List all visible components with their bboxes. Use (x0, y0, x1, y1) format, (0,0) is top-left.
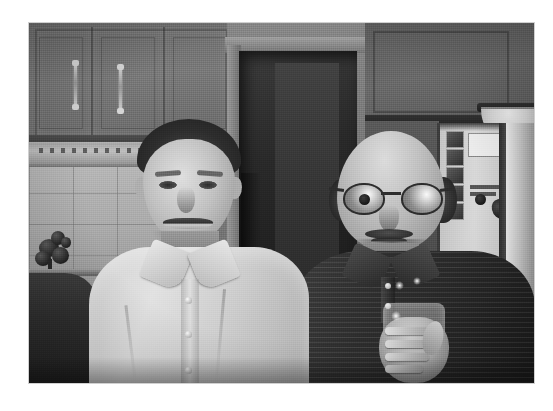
eye (359, 194, 370, 205)
eyeglasses-icon (343, 183, 443, 213)
person-right (291, 131, 534, 383)
cabinet-door (31, 27, 93, 139)
highlight (413, 277, 421, 285)
finger (385, 353, 429, 361)
eyeglass-lens (343, 183, 385, 215)
page-canvas (0, 0, 553, 411)
flower-petal (61, 237, 71, 248)
shirt-button (185, 297, 192, 304)
eye (159, 181, 177, 189)
photo-caption (29, 388, 534, 406)
cabinet-door-panel (101, 37, 155, 129)
flower-petal (52, 247, 69, 264)
mouth (163, 218, 213, 229)
hand (379, 317, 449, 383)
finger (385, 365, 423, 373)
eyeglass-bridge (381, 192, 401, 195)
person-left (89, 119, 309, 383)
shirt-button (185, 367, 192, 374)
highlight (391, 311, 401, 321)
nose (177, 187, 195, 213)
eyeglass-lens (401, 183, 443, 215)
shirt-button (385, 283, 391, 289)
eye (475, 194, 486, 205)
scanned-photograph (29, 23, 534, 383)
eye (199, 181, 217, 189)
cabinet-handle-icon (74, 63, 77, 107)
highlight (395, 281, 404, 290)
cabinet-handle-icon (119, 67, 122, 111)
counter-flower-arrangement (35, 229, 75, 271)
shirt-button (185, 331, 192, 338)
cabinet-door-panel (173, 37, 226, 129)
